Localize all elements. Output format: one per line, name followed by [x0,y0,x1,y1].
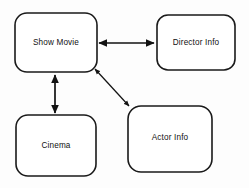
node-actor-info[interactable]: Actor Info [128,106,212,172]
node-actor-info-label: Actor Info [152,133,189,142]
node-show-movie-label: Show Movie [33,38,79,47]
node-director-info[interactable]: Director Info [157,15,235,70]
node-director-info-label: Director Info [173,38,220,47]
node-cinema[interactable]: Cinema [16,115,96,176]
node-show-movie[interactable]: Show Movie [15,13,97,72]
diagram-canvas: Show Movie Director Info Cinema Actor In… [0,0,249,188]
edge-show-movie-actor-info [95,69,129,106]
diagram-svg: Show Movie Director Info Cinema Actor In… [0,0,249,188]
node-cinema-label: Cinema [41,141,70,150]
